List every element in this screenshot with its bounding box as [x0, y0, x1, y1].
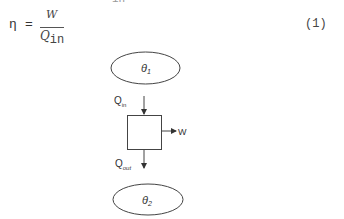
hot-reservoir: θ1: [111, 52, 180, 84]
heat-out-label: Qout: [115, 158, 131, 171]
cold-reservoir: θ2: [113, 184, 183, 215]
hot-reservoir-label: θ1: [141, 62, 151, 75]
heat-engine-diagram: θ1 Qin W Qout θ2: [0, 0, 344, 219]
cold-reservoir-label: θ2: [142, 194, 152, 207]
heat-in-label: Qin: [114, 95, 126, 108]
work-label: W: [178, 127, 187, 137]
engine-box: [128, 116, 162, 150]
